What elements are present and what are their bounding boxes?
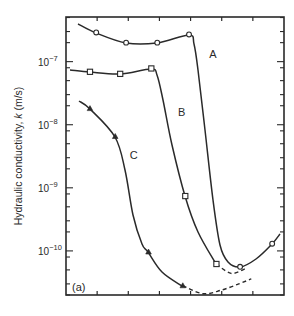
y-tick-label: 10−7 — [38, 54, 58, 68]
circle-marker — [155, 40, 160, 45]
hydraulic-conductivity-chart: Hydraulic conductivity, k (m/s) 10−710−8… — [0, 0, 294, 316]
square-marker — [183, 193, 188, 198]
y-tick-label: 10−9 — [38, 180, 58, 194]
circle-marker — [187, 32, 192, 37]
panel-label: (a) — [72, 281, 85, 293]
y-axis-title: Hydraulic conductivity, k (m/s) — [12, 87, 24, 226]
circle-marker — [124, 40, 129, 45]
square-marker — [87, 69, 92, 74]
circle-marker — [270, 241, 275, 246]
circle-marker — [94, 30, 99, 35]
curve-a — [78, 24, 280, 267]
y-tick-label: 10−10 — [38, 243, 62, 257]
data-curves — [70, 24, 280, 294]
square-marker — [149, 66, 154, 71]
curve-labels: ABC — [130, 48, 217, 161]
curve-label-a: A — [209, 48, 217, 60]
y-tick-labels: 10−710−810−910−10 — [38, 54, 62, 257]
y-tick-label: 10−8 — [38, 117, 58, 131]
svg-text:Hydraulic conductivity, k (m/s: Hydraulic conductivity, k (m/s) — [12, 87, 24, 226]
curve-label-c: C — [130, 149, 138, 161]
dashed-extension-c — [183, 279, 252, 294]
curve-c — [79, 101, 182, 286]
curve-b — [70, 69, 216, 264]
curve-label-b: B — [178, 106, 185, 118]
square-marker — [214, 261, 219, 266]
square-marker — [118, 71, 123, 76]
circle-marker — [238, 264, 243, 269]
data-markers — [87, 30, 274, 288]
